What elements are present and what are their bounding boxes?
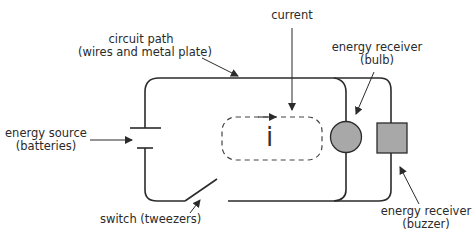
energy-source-label: energy source (batteries) — [4, 127, 88, 153]
bulb-label: energy receiver (bulb) — [330, 41, 424, 67]
battery-symbol — [130, 128, 161, 148]
bottom-left-wire — [145, 148, 185, 201]
current-label: current — [262, 9, 322, 22]
buzzer-label: energy receiver (buzzer) — [379, 205, 473, 231]
bulb-label-line2: (bulb) — [330, 54, 424, 67]
circuit-path-label-line2: (wires and metal plate) — [78, 46, 204, 59]
switch-label: switch (tweezers) — [100, 213, 196, 226]
circuit-path-label: circuit path (wires and metal plate) — [78, 33, 204, 59]
bulb-icon — [331, 122, 362, 153]
current-symbol: i — [266, 124, 273, 150]
circuit-path-arrow — [202, 58, 238, 76]
switch-label-line1: switch (tweezers) — [100, 213, 196, 226]
bulb-branch-top — [334, 78, 346, 122]
switch-lever — [185, 179, 217, 201]
buzzer-arrow — [400, 167, 419, 204]
bulb-branch-bottom — [334, 152, 346, 201]
buzzer-label-line2: (buzzer) — [379, 218, 473, 231]
energy-source-label-line2: (batteries) — [4, 140, 88, 153]
buzzer-icon — [377, 123, 407, 153]
current-label-line1: current — [262, 9, 322, 22]
top-wire — [145, 78, 391, 128]
